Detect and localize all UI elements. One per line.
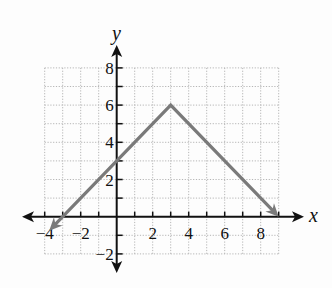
x-tick-label: 2 xyxy=(148,224,157,243)
graph-polyline xyxy=(55,105,273,225)
y-tick-label: 8 xyxy=(105,59,114,78)
y-axis-label: y xyxy=(110,22,121,45)
x-tick-label: 8 xyxy=(256,224,265,243)
x-tick-label: 6 xyxy=(220,224,229,243)
y-tick-label: −2 xyxy=(96,245,114,264)
x-tick-label: 4 xyxy=(184,224,193,243)
y-tick-label: 4 xyxy=(105,133,114,152)
x-tick-label: −2 xyxy=(72,224,90,243)
x-axis-label: x xyxy=(308,204,318,226)
coordinate-plane: −4−22468−22468 x y xyxy=(0,0,332,288)
y-tick-label: 6 xyxy=(105,96,114,115)
